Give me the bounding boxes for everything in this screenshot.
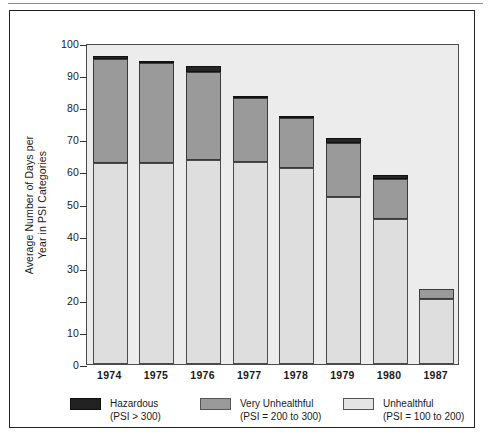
bar-segment-1978-haz — [279, 116, 314, 119]
bar-segment-1976-haz — [186, 66, 221, 71]
bar-segment-1974-haz — [93, 56, 128, 59]
y-tick-label-100: 100 — [61, 39, 79, 49]
bar-segment-1977-unh — [233, 162, 268, 364]
bar-1976 — [186, 66, 221, 364]
bar-segment-1980-unh — [373, 219, 408, 364]
bar-1974 — [93, 56, 128, 364]
bar-segment-1975-vun — [139, 63, 174, 163]
plot-area — [86, 44, 459, 365]
x-tick-label-1987: 1987 — [413, 369, 459, 381]
legend-label-unh: Unhealthful(PSI = 100 to 200) — [383, 397, 464, 423]
y-tick-label-10: 10 — [67, 328, 79, 338]
chart-legend: Hazardous(PSI > 300)Very Unhealthful(PSI… — [40, 397, 470, 427]
y-tick-label-20: 20 — [67, 296, 79, 306]
bar-1979 — [326, 138, 361, 364]
bar-segment-1980-haz — [373, 175, 408, 179]
x-tick-label-1974: 1974 — [86, 369, 132, 381]
y-tick-label-40: 40 — [67, 232, 79, 242]
x-axis-tick-labels: 19741975197619771978197919801987 — [86, 369, 459, 385]
y-tick-label-50: 50 — [67, 200, 79, 210]
x-tick-label-1976: 1976 — [180, 369, 226, 381]
bar-segment-1987-vun — [419, 289, 454, 300]
legend-range-unh: (PSI = 100 to 200) — [383, 410, 464, 423]
y-tick-mark-60 — [80, 173, 87, 174]
y-axis-title: Average Number of Days per Year in PSI C… — [22, 44, 50, 365]
bar-segment-1974-unh — [93, 163, 128, 364]
bar-segment-1976-vun — [186, 72, 221, 160]
x-tick-label-1975: 1975 — [133, 369, 179, 381]
y-tick-label-60: 60 — [67, 167, 79, 177]
y-tick-mark-30 — [80, 270, 87, 271]
bar-segment-1977-vun — [233, 98, 268, 162]
x-tick-label-1980: 1980 — [366, 369, 412, 381]
bar-segment-1980-vun — [373, 179, 408, 219]
bar-segment-1979-vun — [326, 143, 361, 198]
y-tick-label-0: 0 — [73, 360, 79, 370]
y-tick-mark-20 — [80, 302, 87, 303]
y-axis-tick-labels: 0102030405060708090100 — [53, 44, 79, 365]
legend-name-unh: Unhealthful — [383, 398, 434, 409]
x-tick-label-1977: 1977 — [226, 369, 272, 381]
x-tick-label-1978: 1978 — [273, 369, 319, 381]
y-tick-mark-0 — [80, 366, 87, 367]
legend-label-haz: Hazardous(PSI > 300) — [110, 397, 161, 423]
y-tick-mark-80 — [80, 109, 87, 110]
y-tick-label-70: 70 — [67, 135, 79, 145]
y-tick-label-90: 90 — [67, 71, 79, 81]
legend-swatch-unh — [343, 398, 374, 410]
y-tick-mark-100 — [80, 45, 87, 46]
legend-item-vun: Very Unhealthful(PSI = 200 to 300) — [200, 397, 321, 423]
bar-segment-1987-unh — [419, 299, 454, 364]
legend-label-vun: Very Unhealthful(PSI = 200 to 300) — [240, 397, 321, 423]
bar-segment-1975-haz — [139, 61, 174, 64]
chart-figure: Average Number of Days per Year in PSI C… — [0, 0, 491, 436]
legend-name-haz: Hazardous — [110, 398, 158, 409]
legend-swatch-haz — [70, 398, 101, 410]
y-axis-title-line-2: Year in PSI Categories — [36, 150, 48, 258]
x-tick-label-1979: 1979 — [319, 369, 365, 381]
y-tick-mark-40 — [80, 238, 87, 239]
legend-swatch-vun — [200, 398, 231, 410]
legend-item-unh: Unhealthful(PSI = 100 to 200) — [343, 397, 464, 423]
y-tick-label-30: 30 — [67, 264, 79, 274]
bar-segment-1977-haz — [233, 96, 268, 98]
figure-border-box: Average Number of Days per Year in PSI C… — [9, 10, 475, 428]
bar-1978 — [279, 116, 314, 364]
bar-segment-1979-haz — [326, 138, 361, 142]
legend-name-vun: Very Unhealthful — [240, 398, 313, 409]
y-tick-mark-70 — [80, 141, 87, 142]
y-tick-mark-10 — [80, 334, 87, 335]
bar-1980 — [373, 175, 408, 364]
bar-segment-1978-vun — [279, 118, 314, 168]
y-tick-label-80: 80 — [67, 103, 79, 113]
bar-1977 — [233, 96, 268, 364]
bar-segment-1979-unh — [326, 197, 361, 364]
legend-range-haz: (PSI > 300) — [110, 410, 161, 423]
y-tick-mark-90 — [80, 77, 87, 78]
bar-1987 — [419, 289, 454, 364]
bar-1975 — [139, 61, 174, 364]
top-rule-divider — [8, 3, 483, 4]
y-axis-title-line-1: Average Number of Days per — [23, 135, 35, 273]
legend-range-vun: (PSI = 200 to 300) — [240, 410, 321, 423]
bar-segment-1974-vun — [93, 59, 128, 163]
y-tick-mark-50 — [80, 206, 87, 207]
bar-segment-1975-unh — [139, 163, 174, 364]
legend-item-haz: Hazardous(PSI > 300) — [70, 397, 161, 423]
bar-segment-1976-unh — [186, 160, 221, 364]
bar-segment-1978-unh — [279, 168, 314, 364]
